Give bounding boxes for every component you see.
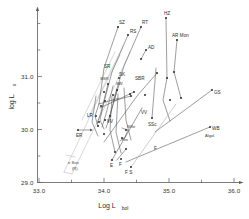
data-point (111, 159, 113, 161)
point-label-gs: GS (214, 90, 221, 95)
data-point (114, 151, 116, 153)
point-label-algol: Algol (205, 133, 214, 138)
data-point (211, 89, 213, 91)
x-ticklabel-33: 33.0 (33, 187, 46, 194)
data-point (125, 129, 127, 131)
data-point (104, 100, 106, 102)
point-label-rs: RS (130, 29, 136, 34)
data-point (120, 158, 122, 160)
data-point (103, 91, 105, 93)
y-axis-arrow (36, 7, 39, 12)
er-arrowhead (90, 129, 93, 131)
x-ticklabel-36: 36.0 (228, 187, 241, 194)
data-point (117, 26, 119, 28)
data-point (116, 89, 118, 91)
track-ssc (152, 68, 156, 118)
data-point (176, 39, 178, 41)
point-label-wb: WB (212, 126, 220, 131)
data-point (107, 83, 109, 85)
guide-line-upper (72, 52, 130, 174)
point-label-rw: Rw (122, 137, 128, 142)
point-label-f-right: F (154, 146, 157, 151)
xray-bolometric-luminosity-scatter-plot: 29.0 30.0 31.0 33.0 34.0 35.0 36.0 Log L… (0, 0, 249, 219)
data-point (144, 94, 146, 96)
y-axis-title: log L (8, 94, 16, 109)
data-point (166, 77, 168, 79)
data-point (109, 115, 111, 117)
point-label-sz: SZ (119, 20, 125, 25)
y-ticklabel-30: 30.0 (21, 126, 34, 133)
track-cluster-i (116, 94, 121, 153)
point-label-sk: SK (119, 72, 126, 77)
x-axis-title: Log L (98, 202, 116, 210)
data-point (151, 117, 153, 119)
data-point (169, 99, 171, 101)
y-ticklabel-29: 29.0 (21, 179, 34, 186)
point-label-e-low: E (110, 163, 113, 168)
x-ticklabel-35: 35.0 (163, 187, 176, 194)
data-point (103, 133, 105, 135)
point-label-f-low: F (119, 162, 122, 167)
plot-canvas: 29.0 30.0 31.0 33.0 34.0 35.0 36.0 Log L… (0, 0, 249, 219)
x-ticklabel-34: 34.0 (98, 187, 111, 194)
data-point (130, 166, 132, 168)
data-point-group (77, 17, 213, 168)
point-label-ssc: SSc (148, 122, 157, 127)
point-label-e-sun: e Sun (68, 160, 79, 165)
track-cluster-l (113, 96, 131, 101)
data-point (133, 91, 135, 93)
point-label-ad: AD (148, 45, 155, 50)
point-label-lr: LR (87, 113, 94, 118)
data-point (173, 71, 175, 73)
data-point (129, 93, 131, 95)
data-point (98, 121, 100, 123)
data-point (77, 129, 79, 131)
data-point (180, 97, 182, 99)
y-ticklabel-31: 31.0 (21, 73, 34, 80)
data-point (156, 72, 158, 74)
axis-group (36, 7, 244, 185)
point-label-sr: SR (104, 64, 111, 69)
data-point (130, 95, 132, 97)
data-point (118, 77, 120, 79)
y-axis-title-subscript: x (11, 83, 17, 86)
guide-line-mid (82, 52, 115, 120)
data-point (127, 34, 129, 36)
track-f-right (131, 104, 176, 167)
point-label-ssr: SSR (100, 76, 108, 81)
point-label-fs: F S (125, 170, 132, 175)
point-label-rt: RT (142, 20, 148, 25)
data-point (145, 49, 147, 51)
axis-title-group: Log L bol log L x (8, 83, 128, 211)
point-label-sw: SW (116, 81, 123, 86)
data-point (112, 94, 114, 96)
track-cluster-h (110, 96, 115, 152)
data-point (209, 126, 211, 128)
track-segment-group (78, 18, 212, 167)
track-ar-mon (174, 40, 181, 98)
data-point (140, 26, 142, 28)
point-label-er: ER (76, 133, 83, 138)
guide-band-tick (66, 155, 75, 157)
track-hz (163, 18, 170, 121)
data-point (165, 17, 167, 19)
track-crossbar (100, 92, 134, 108)
x-axis-title-subscript: bol (122, 205, 129, 211)
point-label-group: SZ RT RS HZ AR Mon AD SR SK SSR SW SBR L… (68, 11, 221, 175)
point-label-hz: HZ (164, 11, 170, 16)
point-label-vv-right: VV (141, 110, 148, 115)
point-label-wfle: Wfle (127, 124, 136, 129)
data-point (100, 105, 102, 107)
guide-band-cap-bottom (64, 172, 72, 174)
x-axis-arrow (239, 181, 244, 184)
point-label-e-sun-r: (R) (72, 166, 78, 171)
point-label-sbr: SBR (135, 76, 145, 81)
track-wfle (122, 128, 128, 137)
point-label-vv-left: VV (107, 119, 114, 124)
data-point (125, 148, 127, 150)
data-point (104, 119, 106, 121)
track-ad (141, 50, 146, 59)
data-point (97, 125, 99, 127)
point-label-ar-mon: AR Mon (172, 33, 189, 38)
data-point (140, 58, 142, 60)
